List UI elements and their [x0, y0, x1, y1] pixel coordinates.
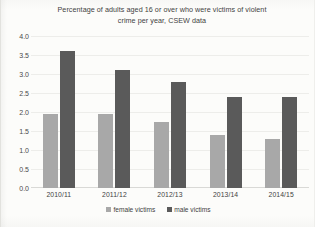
y-axis-tick: 4.0 [19, 33, 29, 40]
chart-title-line-1: Percentage of adults aged 16 or over who… [58, 5, 267, 14]
bar-female [154, 122, 169, 189]
bar-group [146, 36, 193, 188]
legend-item-male: male victims [167, 206, 210, 213]
x-axis-tick: 2010/11 [35, 191, 82, 198]
y-axis-tick: 3.0 [19, 71, 29, 78]
bar-group [91, 36, 138, 188]
bar-male [115, 70, 130, 188]
y-axis-tick: 0.5 [19, 166, 29, 173]
y-axis-tick: 0.0 [19, 185, 29, 192]
x-axis-tick: 2011/12 [91, 191, 138, 198]
bar-female [43, 114, 58, 188]
bar-female [210, 135, 225, 188]
plot-area [31, 36, 309, 188]
legend-item-female: female victims [106, 206, 155, 213]
x-axis-tick: 2014/15 [258, 191, 305, 198]
bar-male [227, 97, 242, 188]
x-axis: 2010/11 2011/12 2012/13 2013/14 2014/15 [31, 191, 309, 198]
y-axis-tick: 2.5 [19, 90, 29, 97]
bar-groups [31, 36, 309, 188]
bar-female [265, 139, 280, 188]
y-axis-tick: 3.5 [19, 52, 29, 59]
bar-male [171, 82, 186, 188]
bar-male [60, 51, 75, 188]
legend-swatch-icon [167, 207, 172, 212]
x-axis-tick: 2013/14 [202, 191, 249, 198]
chart-figure: Percentage of adults aged 16 or over who… [0, 0, 315, 227]
legend-label: male victims [174, 206, 210, 213]
bar-group [202, 36, 249, 188]
legend-label: female victims [113, 206, 155, 213]
legend-swatch-icon [106, 207, 111, 212]
bar-female [98, 114, 113, 188]
bar-group [258, 36, 305, 188]
chart-title-line-2: crime per year, CSEW data [118, 16, 206, 25]
y-axis: 4.0 3.5 3.0 2.5 2.0 1.5 1.0 0.5 0.0 [9, 36, 29, 188]
y-axis-tick: 1.5 [19, 128, 29, 135]
bar-male [282, 97, 297, 188]
y-axis-tick: 1.0 [19, 147, 29, 154]
chart-title: Percentage of adults aged 16 or over who… [37, 5, 287, 26]
bar-group [35, 36, 82, 188]
x-axis-tick: 2012/13 [146, 191, 193, 198]
chart-legend: female victims male victims [1, 206, 315, 213]
y-axis-tick: 2.0 [19, 109, 29, 116]
